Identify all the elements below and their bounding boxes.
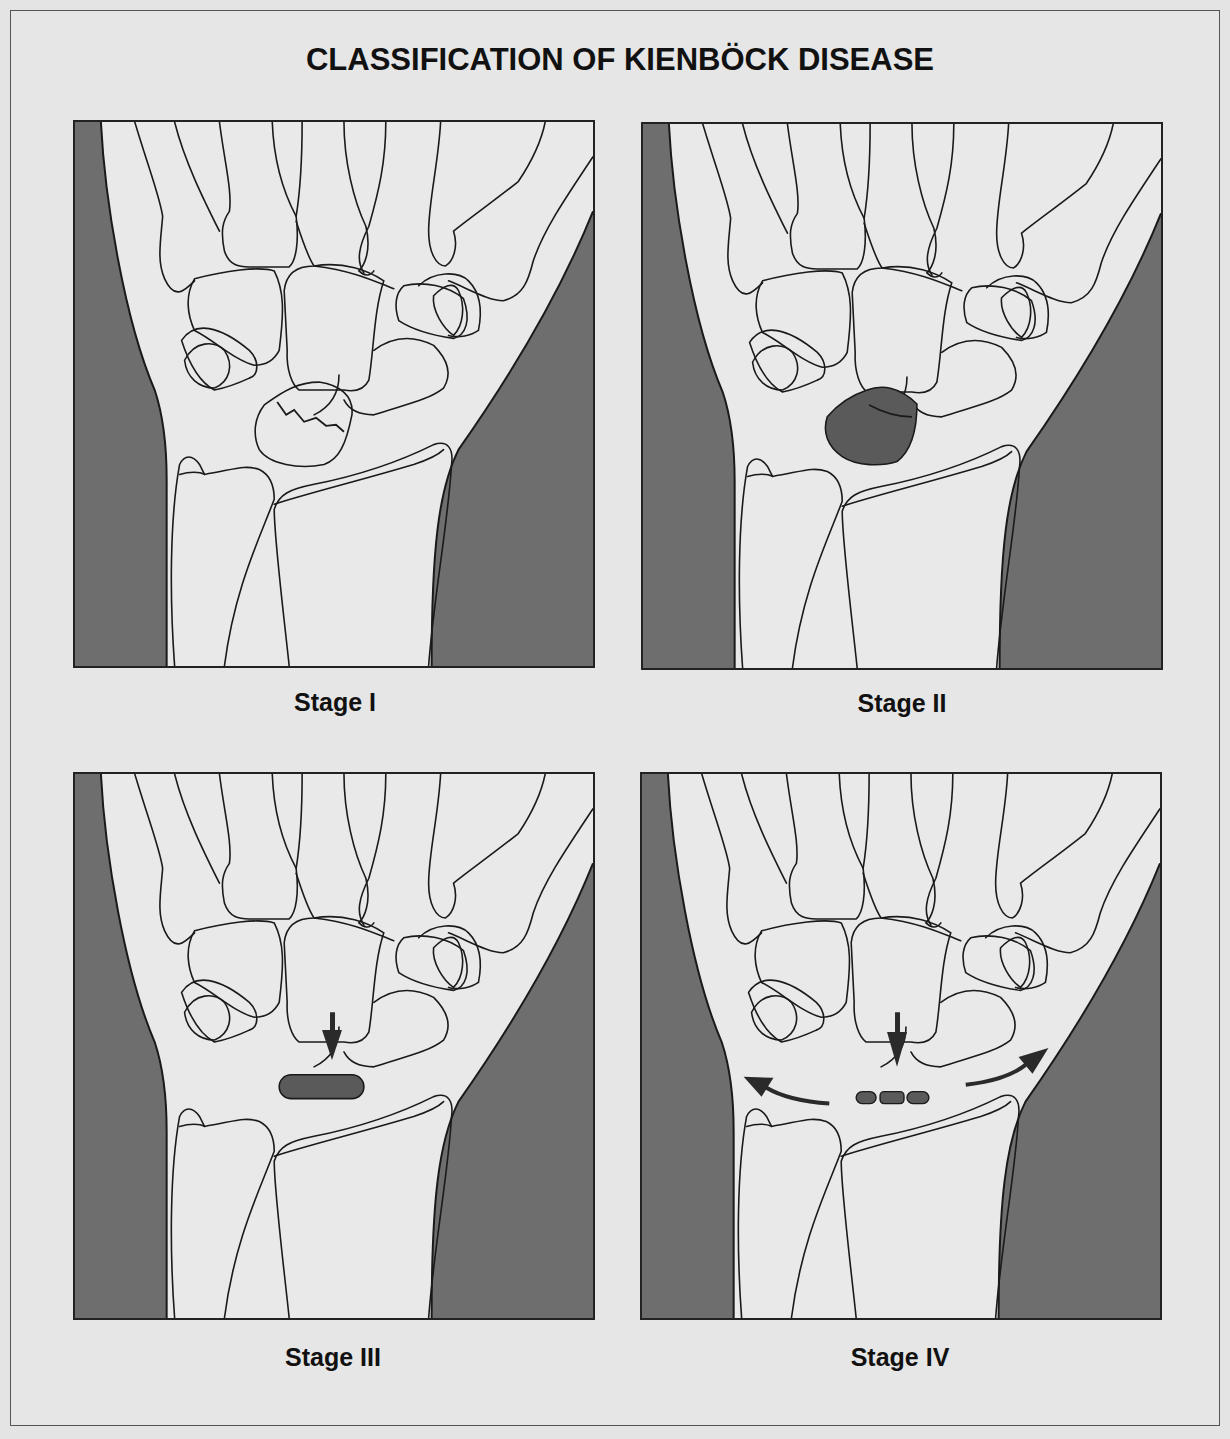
wrist-illustration — [643, 124, 1161, 668]
label-stage-4: Stage IV — [750, 1343, 1050, 1372]
arrow-down-icon — [322, 1012, 342, 1060]
label-stage-3: Stage III — [183, 1343, 483, 1372]
lunate-fragments — [856, 1092, 929, 1104]
panel-stage-1 — [73, 120, 595, 668]
arrow-down-icon — [887, 1012, 907, 1067]
label-stage-2: Stage II — [752, 689, 1052, 718]
arrow-right-curved-icon — [966, 1048, 1049, 1085]
wrist-illustration — [75, 774, 593, 1318]
lunate-fracture — [255, 382, 352, 466]
lunate-collapse — [279, 1075, 364, 1099]
wrist-illustration — [642, 774, 1160, 1318]
label-stage-1: Stage I — [185, 688, 485, 717]
panel-stage-3 — [73, 772, 595, 1320]
lunate-sclerosis — [825, 387, 917, 465]
panel-stage-4 — [640, 772, 1162, 1320]
arrow-left-curved-icon — [744, 1077, 830, 1104]
panel-stage-2 — [641, 122, 1163, 670]
figure-title: CLASSIFICATION OF KIENBÖCK DISEASE — [0, 42, 1230, 78]
wrist-illustration — [75, 122, 593, 666]
